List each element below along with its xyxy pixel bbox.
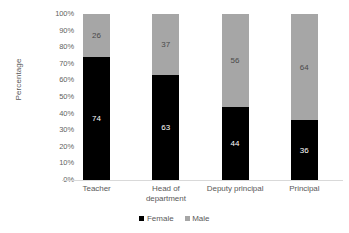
chart-legend: FemaleMale [0,214,349,223]
bar-value-label: 74 [92,114,101,123]
x-axis-category-label: Head of department [133,184,199,204]
bar-value-label: 26 [92,31,101,40]
legend-swatch-icon [185,216,190,221]
legend-swatch-icon [139,216,144,221]
bar-value-label: 44 [231,139,240,148]
x-axis-category-labels: TeacherHead of departmentDeputy principa… [62,184,343,214]
x-axis-category-label: Deputy principal [202,184,268,194]
x-axis-line [62,180,343,181]
bar-value-label: 37 [161,40,170,49]
legend-label: Male [192,214,209,223]
bar-group[interactable]: 3763 [152,14,179,180]
bar-segment-female[interactable]: 36 [291,120,318,180]
bar-group[interactable]: 5644 [222,14,249,180]
bar-segment-male[interactable]: 56 [222,14,249,107]
bar-value-label: 36 [300,146,309,155]
plot-area: 2674376356446436 [62,14,340,180]
bar-segment-female[interactable]: 74 [83,57,110,180]
bar-segment-male[interactable]: 64 [291,14,318,120]
x-axis-category-label: Teacher [64,184,130,194]
bar-segment-female[interactable]: 44 [222,107,249,180]
bar-group[interactable]: 2674 [83,14,110,180]
legend-item[interactable]: Female [139,214,173,223]
x-axis-category-label: Principal [271,184,337,194]
bar-segment-male[interactable]: 37 [152,14,179,75]
legend-label: Female [147,214,174,223]
bar-value-label: 56 [231,56,240,65]
bar-value-label: 64 [300,63,309,72]
legend-item[interactable]: Male [185,214,210,223]
stacked-bar-chart: Percentage 100%90%80%70%60%50%40%30%20%1… [0,0,349,233]
bar-group[interactable]: 6436 [291,14,318,180]
bar-segment-female[interactable]: 63 [152,75,179,180]
y-axis-title: Percentage [14,45,23,115]
bar-value-label: 63 [161,123,170,132]
bar-segment-male[interactable]: 26 [83,14,110,57]
